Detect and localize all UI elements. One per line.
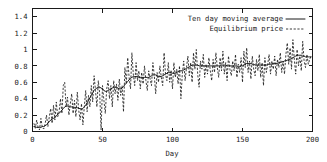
x-tick-label: 50 <box>98 135 107 144</box>
legend-label: Ten day moving average <box>188 14 283 23</box>
y-tick-label: 0.6 <box>15 78 28 87</box>
y-tick-label: 0 <box>23 127 27 136</box>
chart-container: 00.20.40.60.811.21.4 050100150200 Day Te… <box>0 0 327 162</box>
x-axis-title: Day <box>166 149 180 158</box>
series-equilibrium-price <box>34 40 311 130</box>
x-tick-label: 0 <box>30 135 34 144</box>
x-axis-tick-labels: 050100150200 <box>30 135 319 144</box>
legend: Ten day moving averageEquilibrium price <box>188 14 305 33</box>
line-chart: 00.20.40.60.811.21.4 050100150200 Day Te… <box>0 0 327 162</box>
y-tick-label: 0.8 <box>15 62 28 71</box>
y-tick-label: 1.4 <box>15 12 28 21</box>
y-tick-label: 0.2 <box>15 111 28 120</box>
legend-label: Equilibrium price <box>209 24 283 33</box>
y-tick-label: 1 <box>23 45 27 54</box>
y-axis-tick-labels: 00.20.40.60.811.21.4 <box>15 12 28 136</box>
y-tick-label: 1.2 <box>15 29 28 38</box>
x-tick-label: 200 <box>306 135 319 144</box>
x-tick-label: 100 <box>166 135 179 144</box>
y-tick-label: 0.4 <box>15 94 28 103</box>
x-tick-label: 150 <box>236 135 249 144</box>
